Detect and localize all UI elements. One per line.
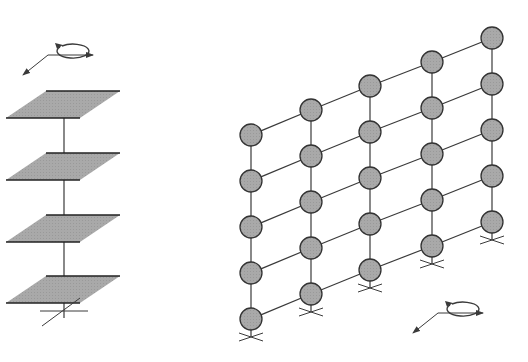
mass-node bbox=[300, 145, 322, 167]
y-axis-arrow-icon bbox=[413, 313, 438, 333]
floor-slab bbox=[6, 276, 120, 303]
mass-node bbox=[240, 216, 262, 238]
shear-building-model bbox=[6, 43, 120, 326]
mass-node bbox=[240, 170, 262, 192]
mass-node bbox=[481, 211, 503, 233]
mass-node bbox=[359, 121, 381, 143]
base-motion-icon bbox=[23, 43, 93, 75]
mass-node bbox=[240, 308, 262, 330]
mass-node bbox=[421, 189, 443, 211]
mass-node bbox=[421, 235, 443, 257]
mass-node bbox=[481, 119, 503, 141]
floor-slab bbox=[6, 91, 120, 118]
rotation-arrow-icon bbox=[57, 44, 89, 58]
mass-node bbox=[359, 75, 381, 97]
mass-node bbox=[481, 73, 503, 95]
mass-node bbox=[300, 237, 322, 259]
mass-node bbox=[240, 124, 262, 146]
mass-node bbox=[240, 262, 262, 284]
floor-slab bbox=[6, 215, 120, 242]
mass-node bbox=[359, 167, 381, 189]
mass-grid-model bbox=[239, 27, 504, 341]
mass-node bbox=[481, 165, 503, 187]
mass-node bbox=[300, 99, 322, 121]
mass-node bbox=[300, 283, 322, 305]
mass-node bbox=[421, 97, 443, 119]
mass-node bbox=[359, 259, 381, 281]
y-axis-arrow-icon bbox=[23, 55, 48, 75]
floor-slab bbox=[6, 153, 120, 180]
base-motion-icon bbox=[413, 301, 483, 333]
rotation-arrow-icon bbox=[447, 302, 479, 316]
structural-diagram bbox=[0, 0, 528, 362]
mass-node bbox=[421, 51, 443, 73]
mass-node bbox=[481, 27, 503, 49]
mass-node bbox=[421, 143, 443, 165]
mass-node bbox=[300, 191, 322, 213]
mass-node bbox=[359, 213, 381, 235]
